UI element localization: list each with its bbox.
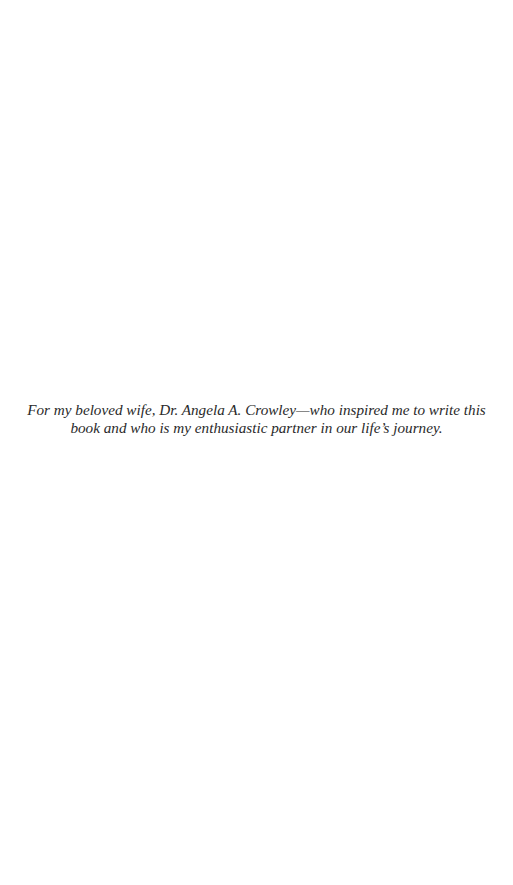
- dedication-line-1: For my beloved wife, Dr. Angela A. Crowl…: [0, 401, 513, 419]
- dedication-line-2: book and who is my enthusiastic partner …: [0, 419, 513, 437]
- book-page: For my beloved wife, Dr. Angela A. Crowl…: [0, 0, 513, 885]
- dedication-text: For my beloved wife, Dr. Angela A. Crowl…: [0, 401, 513, 437]
